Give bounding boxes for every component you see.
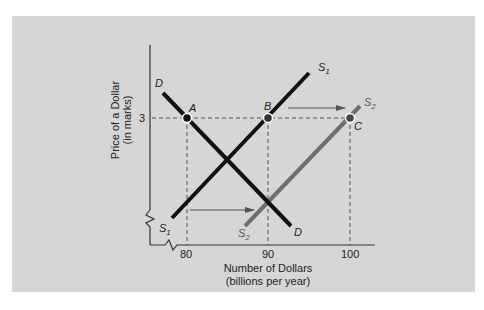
x-tick-90: 90 <box>262 248 274 260</box>
point-b-label: B <box>264 100 271 112</box>
s2-label-bottom: S2 <box>238 227 250 242</box>
x-tick-80: 80 <box>180 248 192 260</box>
demand-label-bottom: D <box>294 226 302 238</box>
s1-label-top: S1 <box>318 61 330 76</box>
y-axis-title-line2: (in marks) <box>121 96 133 145</box>
s2-label-top: S2 <box>364 96 376 111</box>
point-b-marker <box>264 114 273 123</box>
point-a-label: A <box>188 102 196 114</box>
y-tick-3: 3 <box>139 112 145 124</box>
y-axis <box>146 45 154 245</box>
supply-demand-chart: A B C D D S1 S1 S2 S2 3 80 90 100 Number… <box>0 0 484 310</box>
s1-label-bottom: S1 <box>159 222 171 237</box>
x-axis-title-line2: (billions per year) <box>226 275 310 287</box>
point-a-marker <box>183 114 192 123</box>
s1-supply-curve <box>172 73 309 218</box>
demand-label-top: D <box>155 77 163 89</box>
y-axis-title-line1: Price of a Dollar <box>109 81 121 160</box>
x-tick-100: 100 <box>341 248 359 260</box>
point-c-label: C <box>354 120 362 132</box>
x-axis-title-line1: Number of Dollars <box>224 262 313 274</box>
